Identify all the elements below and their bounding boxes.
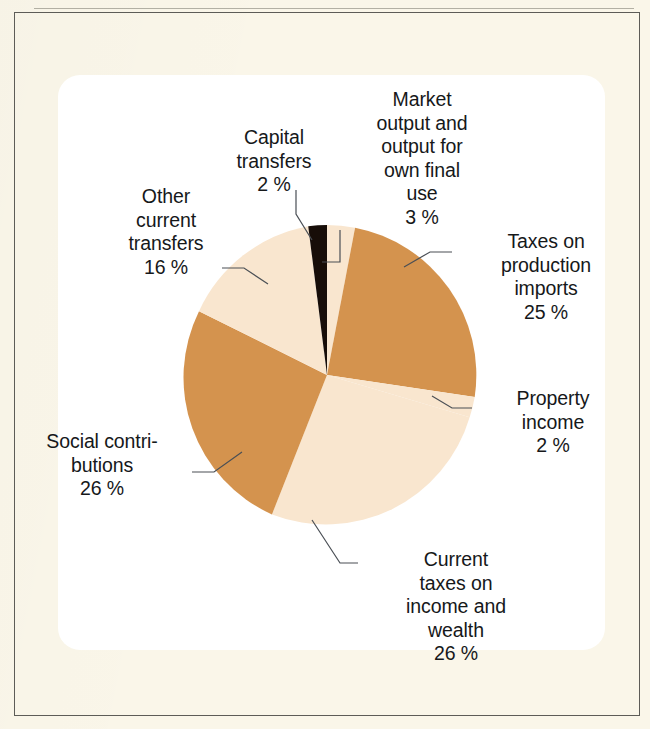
pie-label-capital-transfers: Capital transfers 2 % [204, 126, 344, 197]
pie-chart [0, 0, 650, 729]
figure-root: Market output and output for own final u… [0, 0, 650, 729]
pie-label-current-taxes-income-wealth: Current taxes on income and wealth 26 % [368, 548, 544, 666]
pie-label-property-income: Property income 2 % [478, 387, 628, 458]
pie-label-market-output: Market output and output for own final u… [344, 88, 500, 229]
pie-label-other-current-transfers: Other current transfers 16 % [96, 185, 236, 279]
pie-label-taxes-production-imports: Taxes on production imports 25 % [462, 230, 630, 324]
leader-line-current-taxes [312, 520, 358, 563]
pie-label-social-contributions: Social contri- butions 26 % [18, 430, 186, 501]
